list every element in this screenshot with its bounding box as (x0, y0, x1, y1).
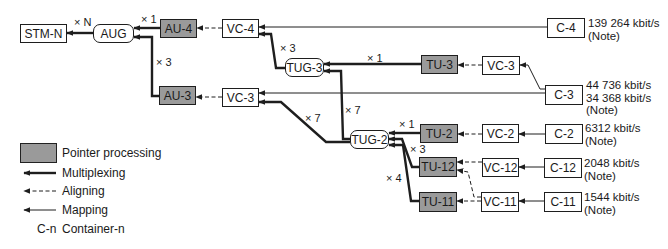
multiplier-tug3-vc4: × 3 (280, 42, 296, 54)
multiplier-au3-aug: × 3 (156, 56, 172, 68)
c12-node: C-12 (544, 158, 582, 178)
multiplier-tu11-tug2: × 4 (386, 172, 402, 184)
c3-node: C-3 (545, 85, 583, 105)
vc4-node: VC-4 (222, 19, 259, 38)
legend-aligning-label: Aligning (62, 184, 105, 198)
legend-container-label: Container-n (62, 222, 125, 236)
multiplier-tug2-vc3: × 7 (305, 112, 321, 124)
multiplier-tug2-tug3: × 7 (345, 104, 361, 116)
rate-c2: 6312 kbit/s (Note) (585, 122, 641, 147)
vc11-node: VC-11 (481, 192, 519, 212)
tug3-node: TUG-3 (285, 58, 324, 77)
legend-mapping-label: Mapping (62, 203, 108, 217)
tu3-node: TU-3 (421, 55, 458, 74)
legend-container-key: C-n (37, 222, 56, 236)
tug2-node: TUG-2 (350, 130, 389, 149)
c4-node: C-4 (547, 18, 585, 38)
legend-multiplexing-label: Multiplexing (62, 166, 125, 180)
au4-node: AU-4 (160, 19, 197, 38)
rate-c11: 1544 kbit/s (Note) (584, 191, 640, 216)
multiplier-aug-stm: × N (74, 16, 91, 28)
vc3-upper-node: VC-3 (482, 56, 520, 75)
au3-node: AU-3 (159, 86, 196, 105)
rate-c4: 139 264 kbit/s (Note) (588, 17, 660, 42)
multiplier-tu2-tug2: × 1 (399, 118, 415, 130)
tu12-node: TU-12 (419, 157, 457, 177)
legend-pointer-swatch (20, 143, 57, 163)
c2-node: C-2 (545, 124, 583, 144)
stm-n-node: STM-N (20, 24, 67, 43)
vc2-node: VC-2 (482, 124, 519, 143)
vc3-lower-node: VC-3 (222, 88, 259, 107)
legend-pointer-label: Pointer processing (62, 146, 161, 160)
rate-c3: 44 736 kbit/s 34 368 kbit/s (Note) (586, 79, 651, 117)
tu2-node: TU-2 (420, 124, 458, 143)
multiplier-au4-aug: × 1 (141, 13, 157, 25)
c11-node: C-11 (544, 192, 582, 212)
vc12-node: VC-12 (482, 158, 519, 177)
rate-c12: 2048 kbit/s (Note) (584, 157, 640, 182)
aug-node: AUG (93, 24, 134, 43)
multiplier-tu12-tug2: × 3 (410, 143, 426, 155)
multiplier-tu3-tug3: × 1 (367, 52, 383, 64)
tu11-node: TU-11 (419, 192, 457, 212)
